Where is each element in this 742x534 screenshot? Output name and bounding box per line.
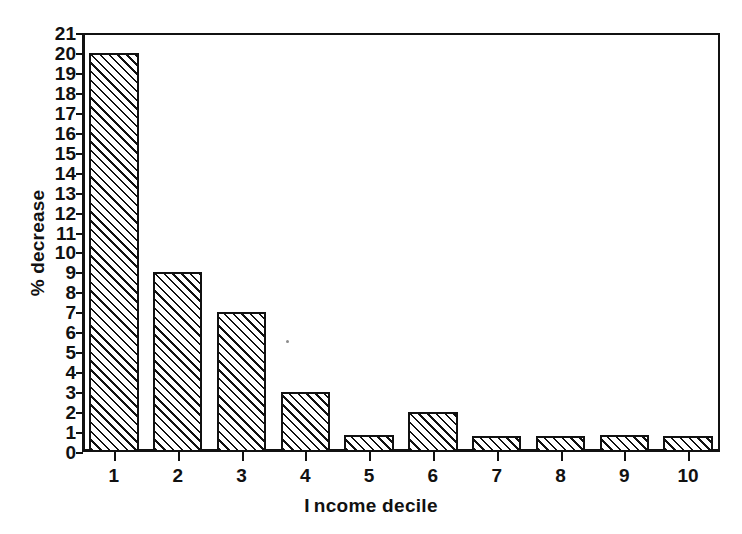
- x-axis-tick-label: 10: [658, 466, 718, 485]
- y-axis-tick-label: 21: [42, 24, 76, 43]
- x-axis-tick-label: 2: [148, 466, 208, 485]
- bar-chart: % decrease 01234567891011121314151617181…: [0, 0, 742, 534]
- x-axis-tick-mark: [178, 452, 180, 461]
- y-axis-tick-label: 6: [42, 323, 76, 342]
- x-axis-tick-mark: [688, 452, 690, 461]
- y-axis-tick-label: 17: [42, 104, 76, 123]
- y-axis-tick-mark: [76, 452, 83, 454]
- x-axis-tick-label: 7: [467, 466, 527, 485]
- bar: [663, 436, 712, 452]
- y-axis-tick-label: 3: [42, 383, 76, 402]
- bar: [153, 272, 202, 452]
- y-axis-tick-label: 7: [42, 303, 76, 322]
- y-axis-tick-labels: 0123456789101112131415161718192021: [18, 0, 76, 534]
- y-axis-tick-label: 15: [42, 144, 76, 163]
- y-axis-tick-label: 12: [42, 204, 76, 223]
- x-axis-tick-label: 3: [212, 466, 272, 485]
- x-axis-tick-mark: [497, 452, 499, 461]
- x-axis-title: Income decile: [0, 495, 742, 517]
- y-axis-tick-label: 2: [42, 403, 76, 422]
- x-axis-tick-label: 1: [84, 466, 144, 485]
- bar: [89, 53, 138, 452]
- y-axis-tick-label: 5: [42, 343, 76, 362]
- bar: [472, 436, 521, 452]
- x-axis-tick-label: 6: [403, 466, 463, 485]
- y-axis-tick-label: 16: [42, 124, 76, 143]
- y-axis-tick-label: 14: [42, 164, 76, 183]
- y-axis-tick-label: 18: [42, 84, 76, 103]
- y-axis-tick-label: 9: [42, 263, 76, 282]
- bar: [408, 412, 457, 452]
- y-axis-tick-label: 11: [42, 224, 76, 243]
- bar: [217, 312, 266, 452]
- x-axis-tick-mark: [624, 452, 626, 461]
- x-axis-tick-mark: [561, 452, 563, 461]
- y-axis-tick-label: 0: [42, 443, 76, 462]
- bar: [344, 435, 393, 452]
- y-axis-tick-label: 1: [42, 423, 76, 442]
- x-axis-tick-label: 4: [275, 466, 335, 485]
- x-axis-tick-mark: [305, 452, 307, 461]
- x-axis-tick-mark: [433, 452, 435, 461]
- x-axis-tick-mark: [242, 452, 244, 461]
- scan-speck: [286, 340, 289, 343]
- bar: [281, 392, 330, 452]
- x-axis-tick-label: 5: [339, 466, 399, 485]
- bar: [600, 435, 649, 452]
- bar-series: [82, 33, 720, 452]
- x-axis-tick-mark: [369, 452, 371, 461]
- y-axis-tick-label: 20: [42, 44, 76, 63]
- y-axis-tick-label: 4: [42, 363, 76, 382]
- bar: [536, 436, 585, 452]
- x-axis-tick-mark: [114, 452, 116, 461]
- y-axis-tick-label: 10: [42, 243, 76, 262]
- y-axis-tick-label: 13: [42, 184, 76, 203]
- x-axis-tick-label: 8: [531, 466, 591, 485]
- y-axis-tick-label: 19: [42, 64, 76, 83]
- x-axis-tick-label: 9: [594, 466, 654, 485]
- y-axis-tick-label: 8: [42, 283, 76, 302]
